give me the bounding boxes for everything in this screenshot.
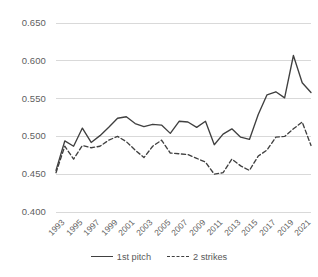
y-tick-label: 0.550 <box>0 94 46 104</box>
line-chart: 0.6500.6000.5500.5000.4500.400 199319951… <box>0 0 318 277</box>
legend-label: 1st pitch <box>117 252 151 262</box>
legend-item-1st-pitch[interactable]: 1st pitch <box>91 252 151 262</box>
plot-area <box>56 23 311 212</box>
solid-line-icon <box>91 253 113 261</box>
legend-label: 2 strikes <box>193 252 227 262</box>
y-tick-label: 0.650 <box>0 18 46 28</box>
y-tick-label: 0.500 <box>0 131 46 141</box>
chart-legend: 1st pitch2 strikes <box>0 252 318 262</box>
y-tick-label: 0.400 <box>0 207 46 217</box>
y-tick-label: 0.600 <box>0 56 46 66</box>
dashed-line-icon <box>167 253 189 261</box>
legend-item-2-strikes[interactable]: 2 strikes <box>167 252 227 262</box>
y-tick-label: 0.450 <box>0 169 46 179</box>
x-axis: 1993199519971999200120032005200720092011… <box>56 214 311 248</box>
series-layer <box>56 23 311 212</box>
series-line-2-strikes <box>56 122 311 174</box>
series-line-1st-pitch <box>56 56 311 171</box>
